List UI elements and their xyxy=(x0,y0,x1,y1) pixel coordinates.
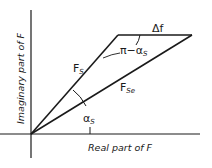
vector-fse xyxy=(31,35,192,134)
label-delta-f: Δf xyxy=(152,22,165,35)
label-fse: FSe xyxy=(120,81,135,95)
x-axis-label: Real part of F xyxy=(88,142,153,153)
phasor-diagram: Δf π−αS FS FSe αS Real part of F Imagina… xyxy=(0,0,212,168)
y-axis-label: Imaginary part of F xyxy=(15,32,26,124)
label-alpha-s: αS xyxy=(83,112,95,126)
label-fs: FS xyxy=(73,62,84,76)
label-pi-minus-alpha: π−αS xyxy=(120,44,148,58)
vector-fs xyxy=(31,35,118,134)
leader-line xyxy=(103,53,120,58)
